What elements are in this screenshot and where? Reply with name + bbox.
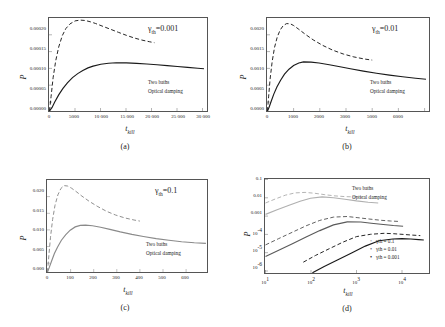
panel-a-curves xyxy=(49,18,207,111)
figure-root: P 0.00000 0.00005 0.00010 0.00015 0.0002… xyxy=(0,0,445,327)
panel-d-xtick-3: 104 xyxy=(392,276,412,285)
panel-d-gamma-key: • γth = 0.1 • γth = 0.01 • γth = 0.001 xyxy=(368,237,400,261)
panel-a-gamma-label: γth=0.001 xyxy=(148,24,178,35)
panel-b-plot-area xyxy=(266,17,430,112)
panel-b-legend-item-two-baths: Two baths xyxy=(350,77,405,86)
panel-c-ytick-4: 0.020 xyxy=(12,188,44,193)
panel-b-xtick-1: 1000 xyxy=(282,114,304,119)
panel-a-y-axis-label: P xyxy=(19,70,28,80)
panel-d: P 0.1 0.01 0.001 10-4 10-5 10-6 xyxy=(222,163,445,327)
panel-a-legend-item-optical-damping: Optical damping xyxy=(128,86,183,95)
panel-d-ytick-2: 0.001 xyxy=(236,210,262,215)
gamma-marker-icon: • xyxy=(368,246,374,252)
panel-c-x-axis-label: tkill xyxy=(108,285,148,296)
panel-d-gamma-key-row-2: • γth = 0.001 xyxy=(368,253,400,261)
panel-d-xtick-1: 102 xyxy=(301,276,321,285)
panel-c-ytick-2: 0.010 xyxy=(12,227,44,232)
panel-b-ytick-4: 0.0020 xyxy=(230,26,264,31)
panel-b-xtick-5: 6000 xyxy=(387,114,409,119)
panel-b-caption: (b) xyxy=(317,142,377,151)
panel-b-x-axis-label: tkill xyxy=(330,124,370,135)
panel-c-caption: (c) xyxy=(95,303,155,312)
panel-a-plot-area xyxy=(48,17,208,112)
panel-c-xtick-3: 300 xyxy=(105,275,127,280)
panel-a: P 0.00000 0.00005 0.00010 0.00015 0.0002… xyxy=(0,0,222,163)
panel-b-ytick-0: 0.0000 xyxy=(230,106,264,111)
panel-a-xtick-6: 30 000 xyxy=(190,114,216,119)
panel-a-ytick-1: 0.00005 xyxy=(10,86,46,91)
panel-a-legend-item-two-baths: Two baths xyxy=(128,77,183,86)
panel-d-xtick-0: 101 xyxy=(255,276,275,285)
panel-b-xtick-0: 0 xyxy=(256,114,278,119)
panel-c-legend: Two baths Optical damping xyxy=(126,239,181,257)
panel-c-legend-item-two-baths: Two baths xyxy=(126,239,181,248)
panel-b-ytick-3: 0.0015 xyxy=(230,46,264,51)
panel-d-gamma-key-row-1: • γth = 0.01 xyxy=(368,245,400,253)
panel-c-xtick-0: 0 xyxy=(36,275,58,280)
panel-d-x-axis-label: tkill xyxy=(328,286,368,297)
panel-c-y-axis-label: P xyxy=(19,231,28,241)
panel-c-plot-area xyxy=(46,179,208,273)
panel-a-ytick-0: 0.00000 xyxy=(10,106,46,111)
panel-d-ytick-1: 0.01 xyxy=(236,193,262,198)
panel-b-y-axis-label: P xyxy=(239,70,248,80)
panel-b-xtick-4: 5000 xyxy=(361,114,383,119)
panel-d-ytick-4: 10-5 xyxy=(236,244,262,253)
panel-b-curves xyxy=(267,18,429,111)
panel-c-ytick-0: 0.000 xyxy=(12,266,44,271)
panel-b-gamma-label: γth=0.01 xyxy=(372,24,398,35)
panel-a-legend: Two baths Optical damping xyxy=(128,77,183,95)
panel-a-ytick-2: 0.00010 xyxy=(10,66,46,71)
panel-c-xtick-5: 500 xyxy=(151,275,173,280)
panel-a-xtick-1: 5000 xyxy=(63,114,85,119)
panel-c-gamma-label: γth=0.1 xyxy=(155,186,177,197)
panel-c-ytick-3: 0.015 xyxy=(12,208,44,213)
panel-a-ytick-3: 0.00015 xyxy=(10,46,46,51)
panel-c-ytick-1: 0.005 xyxy=(12,247,44,252)
panel-c-xtick-1: 100 xyxy=(59,275,81,280)
panel-a-ytick-4: 0.00020 xyxy=(10,26,46,31)
panel-a-xtick-3: 15 000 xyxy=(114,114,140,119)
gamma-marker-icon: • xyxy=(368,254,374,260)
panel-c: P 0.000 0.005 0.010 0.015 0.020 xyxy=(0,163,222,327)
panel-b-xtick-3: 3000 xyxy=(334,114,356,119)
panel-c-xtick-6: 600 xyxy=(174,275,196,280)
panel-d-ytick-3: 10-4 xyxy=(236,227,262,236)
gamma-marker-icon: • xyxy=(368,238,374,244)
panel-c-curves xyxy=(47,180,207,272)
panel-d-ytick-0: 0.1 xyxy=(236,176,262,181)
panel-a-x-axis-label: tkill xyxy=(110,124,150,135)
panel-c-xtick-2: 200 xyxy=(82,275,104,280)
panel-d-legend-item-two-baths: Two baths xyxy=(332,183,387,192)
panel-d-legend: Two baths Optical damping xyxy=(332,183,387,201)
panel-a-xtick-0: 0 xyxy=(38,114,60,119)
panel-d-xtick-2: 103 xyxy=(346,276,366,285)
panel-c-legend-item-optical-damping: Optical damping xyxy=(126,248,181,257)
panel-a-xtick-4: 20 000 xyxy=(139,114,165,119)
panel-b-ytick-2: 0.0010 xyxy=(230,66,264,71)
panel-a-xtick-5: 25 000 xyxy=(165,114,191,119)
panel-d-ytick-5: 10-6 xyxy=(236,261,262,270)
panel-b-xtick-2: 2000 xyxy=(308,114,330,119)
panel-b-ytick-1: 0.0005 xyxy=(230,86,264,91)
panel-d-caption: (d) xyxy=(317,304,377,313)
panel-a-caption: (a) xyxy=(95,142,155,151)
panel-c-xtick-4: 400 xyxy=(128,275,150,280)
panel-a-xtick-2: 10 000 xyxy=(88,114,114,119)
panel-b-legend-item-optical-damping: Optical damping xyxy=(350,86,405,95)
panel-b: P 0.0000 0.0005 0.0010 0.0015 0.0020 xyxy=(222,0,445,163)
panel-d-legend-item-optical-damping: Optical damping xyxy=(332,192,387,201)
panel-b-legend: Two baths Optical damping xyxy=(350,77,405,95)
panel-d-gamma-key-row-0: • γth = 0.1 xyxy=(368,237,400,245)
